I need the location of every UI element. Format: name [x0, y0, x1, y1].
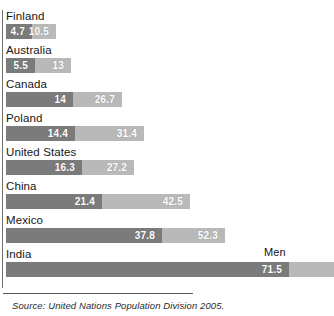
row-label-poland: Poland: [6, 112, 42, 125]
bar-value-men-united-states: 16.3: [55, 162, 82, 173]
bar-segment-women-mexico: 52.3: [162, 228, 225, 243]
bar-value-men-china: 21.4: [75, 196, 102, 207]
bar-value-women-china: 42.5: [163, 196, 190, 207]
table-row: China 21.4 42.5: [6, 180, 334, 214]
footer-divider: [3, 293, 193, 294]
row-label-india: India: [6, 248, 31, 261]
bar-segment-men-mexico: 37.8: [6, 228, 162, 243]
chart-plot-area: Finland 4.7 10.5 Australia 5.5 13: [6, 10, 334, 288]
bar-value-women-united-states: 27.2: [107, 162, 134, 173]
table-row: India Men 71.5: [6, 248, 334, 282]
bar-segment-men-china: 21.4: [6, 194, 102, 209]
chart-left-axis-rule: [2, 10, 3, 288]
bar-chart: Finland 4.7 10.5 Australia 5.5 13: [0, 0, 334, 316]
bar-segment-men-australia: 5.5: [6, 58, 35, 73]
bar-segment-women-united-states: 27.2: [82, 160, 134, 175]
legend-item-men: Men: [264, 246, 286, 258]
bar-value-men-india: 71.5: [262, 264, 289, 275]
bar-segment-women-canada: 26.7: [73, 92, 122, 107]
bar-group-canada: 14 26.7: [6, 92, 122, 107]
bar-segment-men-united-states: 16.3: [6, 160, 82, 175]
table-row: Australia 5.5 13: [6, 44, 334, 78]
bar-group-finland: 4.7 10.5: [6, 24, 56, 39]
bar-segment-women-china: 42.5: [102, 194, 190, 209]
row-label-mexico: Mexico: [6, 214, 43, 227]
table-row: Mexico 37.8 52.3: [6, 214, 334, 248]
row-label-canada: Canada: [6, 78, 47, 91]
bar-value-women-finland: 10.5: [29, 26, 56, 37]
bar-segment-women-australia: 13: [35, 58, 71, 73]
bar-segment-men-canada: 14: [6, 92, 73, 107]
table-row: Canada 14 26.7: [6, 78, 334, 112]
bar-value-women-poland: 31.4: [117, 128, 144, 139]
source-note: Source: United Nations Population Divisi…: [12, 300, 224, 311]
bar-value-men-australia: 5.5: [13, 60, 35, 71]
row-label-finland: Finland: [6, 10, 44, 23]
row-label-australia: Australia: [6, 44, 52, 57]
bar-value-women-mexico: 52.3: [198, 230, 225, 241]
bar-group-mexico: 37.8 52.3: [6, 228, 225, 243]
bar-value-men-canada: 14: [54, 94, 73, 105]
row-label-united-states: United States: [6, 146, 76, 159]
bar-group-united-states: 16.3 27.2: [6, 160, 134, 175]
bar-value-women-australia: 13: [52, 60, 71, 71]
bar-segment-men-india: 71.5: [6, 262, 289, 277]
bar-value-men-poland: 14.4: [48, 128, 75, 139]
table-row: Poland 14.4 31.4: [6, 112, 334, 146]
table-row: Finland 4.7 10.5: [6, 10, 334, 44]
bar-segment-women-india: [289, 262, 334, 277]
row-label-china: China: [6, 180, 37, 193]
bar-value-women-canada: 26.7: [95, 94, 122, 105]
bar-group-poland: 14.4 31.4: [6, 126, 144, 141]
bar-segment-women-poland: 31.4: [75, 126, 144, 141]
bar-segment-men-poland: 14.4: [6, 126, 75, 141]
table-row: United States 16.3 27.2: [6, 146, 334, 180]
bar-group-australia: 5.5 13: [6, 58, 71, 73]
bar-segment-women-finland: 10.5: [32, 24, 56, 39]
bar-value-men-mexico: 37.8: [135, 230, 162, 241]
bar-group-china: 21.4 42.5: [6, 194, 190, 209]
bar-group-india: 71.5: [6, 262, 334, 277]
